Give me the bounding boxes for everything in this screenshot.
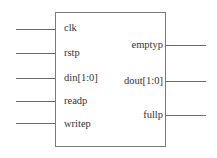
input-wire-rstp <box>16 53 55 54</box>
output-label-fullp: fullp <box>143 109 163 121</box>
input-label-readp: readp <box>64 95 87 107</box>
input-label-rstp: rstp <box>64 47 80 59</box>
output-wire-dout <box>166 81 206 82</box>
input-wire-readp <box>16 101 55 102</box>
input-wire-clk <box>16 29 55 30</box>
input-label-clk: clk <box>64 22 77 34</box>
input-wire-din <box>16 78 55 79</box>
input-label-din: din[1:0] <box>64 72 98 84</box>
input-label-writep: writep <box>64 118 91 130</box>
output-label-emptyp: emptyp <box>132 39 164 51</box>
input-wire-writep <box>16 123 55 124</box>
output-label-dout: dout[1:0] <box>124 75 163 87</box>
output-wire-fullp <box>166 115 206 116</box>
output-wire-emptyp <box>166 45 206 46</box>
